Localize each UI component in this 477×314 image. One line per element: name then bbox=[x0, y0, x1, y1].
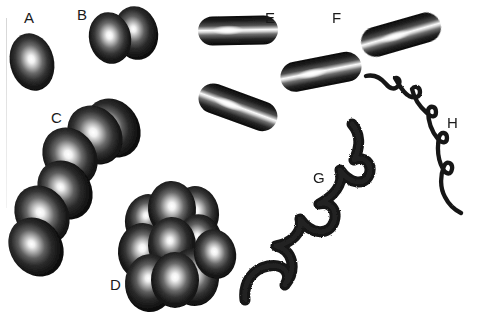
label-c: C bbox=[51, 110, 62, 125]
organism-b-diplococci bbox=[84, 2, 163, 68]
label-f: F bbox=[332, 10, 341, 25]
label-a: A bbox=[24, 10, 34, 25]
label-h: H bbox=[447, 115, 458, 130]
bacteria-morphology-figure: A B C D E F G H bbox=[0, 0, 477, 314]
organism-g-spirillum bbox=[245, 124, 370, 300]
organism-d-staphylococci-cluster bbox=[115, 179, 241, 313]
bacteria-illustration bbox=[0, 0, 477, 314]
label-d: D bbox=[110, 277, 121, 292]
organism-h-spirochete bbox=[366, 75, 461, 213]
organism-a-single-coccus bbox=[4, 29, 61, 96]
label-g: G bbox=[313, 170, 325, 185]
label-e: E bbox=[265, 10, 275, 25]
label-b: B bbox=[77, 7, 87, 22]
